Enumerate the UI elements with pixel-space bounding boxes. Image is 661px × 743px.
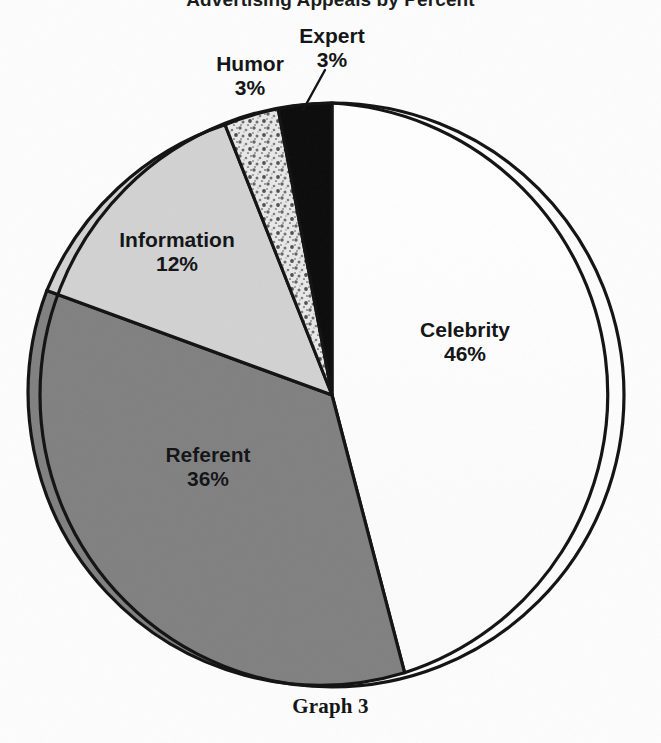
pie-chart-graphic (0, 0, 661, 743)
slice-label-expert-percent: 3% (272, 48, 392, 72)
graph-caption: Graph 3 (0, 694, 661, 719)
slice-label-expert: Expert 3% (272, 24, 392, 73)
slice-label-referent-percent: 36% (128, 467, 288, 491)
slice-label-information: Information 12% (93, 228, 261, 277)
slice-label-referent-name: Referent (128, 443, 288, 467)
pie-chart-page: Advertising Appeals by Percent (0, 0, 661, 743)
slice-label-information-percent: 12% (93, 252, 261, 276)
slice-label-referent: Referent 36% (128, 443, 288, 492)
slice-label-humor-percent: 3% (188, 76, 312, 100)
slice-label-information-name: Information (93, 228, 261, 252)
slice-label-celebrity: Celebrity 46% (385, 318, 545, 367)
slice-label-celebrity-percent: 46% (385, 342, 545, 366)
slice-label-celebrity-name: Celebrity (385, 318, 545, 342)
slice-label-expert-name: Expert (272, 24, 392, 48)
